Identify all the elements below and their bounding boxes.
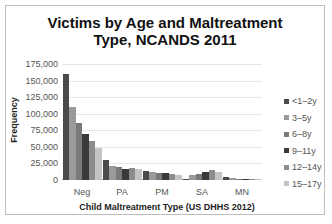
gridline	[62, 64, 262, 65]
legend-label: 9–11y	[292, 146, 316, 156]
y-tick-label: 150,000	[18, 76, 58, 86]
gridline	[62, 97, 262, 98]
x-tick-label: Neg	[74, 187, 91, 197]
legend-swatch-icon	[284, 99, 289, 104]
legend-swatch-icon	[284, 148, 289, 153]
x-axis-label: Child Maltreatment Type (US DHHS 2012)	[62, 202, 272, 212]
gridline	[62, 114, 262, 115]
gridline	[62, 130, 262, 131]
y-axis-label: Frequency	[9, 97, 19, 143]
bar	[215, 172, 222, 180]
bar	[135, 169, 142, 180]
bar	[95, 148, 102, 180]
legend-item: 3–5y	[284, 110, 322, 127]
legend-item: 9–11y	[284, 143, 322, 160]
legend-swatch-icon	[284, 181, 289, 186]
legend-item: 15–17y	[284, 176, 322, 193]
y-tick-label: 25,000	[18, 158, 58, 168]
y-tick-label: 175,000	[18, 59, 58, 69]
legend-label: <1–2y	[292, 96, 317, 106]
legend-label: 3–5y	[292, 113, 312, 123]
legend-label: 6–8y	[292, 129, 312, 139]
chart-title: Victims by Age and Maltreatment Type, NC…	[6, 14, 324, 48]
legend-swatch-icon	[284, 132, 289, 137]
y-tick-label: 75,000	[18, 125, 58, 135]
chart-title-line-1: Victims by Age and Maltreatment	[6, 14, 324, 31]
y-tick-label: 0	[18, 175, 58, 185]
bar	[255, 179, 262, 180]
chart-title-line-2: Type, NCANDS 2011	[6, 31, 324, 48]
x-tick-label: PA	[116, 187, 127, 197]
legend-label: 12–14y	[292, 162, 322, 172]
legend: <1–2y3–5y6–8y9–11y12–14y15–17y	[284, 93, 322, 192]
legend-item: 12–14y	[284, 159, 322, 176]
legend-item: 6–8y	[284, 126, 322, 143]
legend-swatch-icon	[284, 115, 289, 120]
y-tick-label: 100,000	[18, 109, 58, 119]
plot-area	[62, 64, 262, 180]
legend-label: 15–17y	[292, 179, 322, 189]
y-tick-label: 50,000	[18, 142, 58, 152]
y-tick-label: 125,000	[18, 92, 58, 102]
x-tick-label: SA	[196, 187, 208, 197]
legend-item: <1–2y	[284, 93, 322, 110]
legend-swatch-icon	[284, 165, 289, 170]
x-tick-label: MN	[235, 187, 249, 197]
x-tick-label: PM	[155, 187, 169, 197]
bar	[175, 175, 182, 180]
gridline	[62, 81, 262, 82]
